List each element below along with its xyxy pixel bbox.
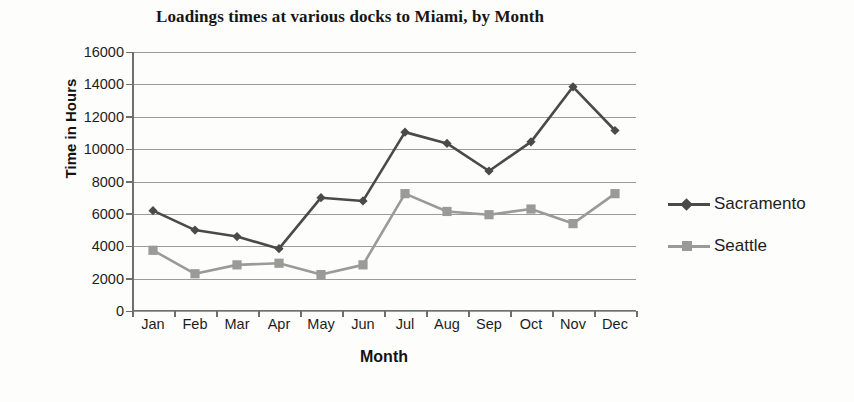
x-tick-mark — [300, 311, 302, 317]
chart-container: Loadings times at various docks to Miami… — [0, 0, 854, 402]
x-tick-mark — [510, 311, 512, 317]
x-tick-mark — [426, 311, 428, 317]
y-tick-mark — [126, 278, 132, 280]
diamond-marker-icon — [668, 197, 710, 211]
y-tick-label: 4000 — [58, 238, 124, 254]
legend-item-seattle[interactable]: Seattle — [668, 230, 848, 272]
grid-line — [132, 214, 636, 215]
y-tick-mark — [126, 84, 132, 86]
y-tick-mark — [126, 213, 132, 215]
x-tick-mark — [174, 311, 176, 317]
y-tick-label: 2000 — [58, 271, 124, 287]
y-tick-mark — [126, 149, 132, 151]
chart-legend: SacramentoSeattle — [668, 188, 848, 272]
x-axis-title: Month — [132, 348, 636, 366]
x-tick-mark — [594, 311, 596, 317]
y-tick-label: 0 — [58, 303, 124, 319]
grid-line — [132, 52, 636, 53]
x-tick-mark — [216, 311, 218, 317]
y-tick-mark — [126, 246, 132, 248]
y-axis-line — [132, 52, 134, 311]
y-tick-mark — [126, 116, 132, 118]
x-tick-label: Dec — [589, 316, 641, 332]
grid-line — [132, 182, 636, 183]
y-tick-mark — [126, 181, 132, 183]
plot-area — [132, 52, 636, 311]
legend-label: Seattle — [714, 230, 767, 262]
x-tick-mark — [468, 311, 470, 317]
x-tick-mark — [342, 311, 344, 317]
grid-line — [132, 117, 636, 118]
y-axis-title: Time in Hours — [62, 49, 79, 209]
grid-line — [132, 149, 636, 150]
y-tick-mark — [126, 52, 132, 54]
square-marker-icon — [668, 239, 710, 253]
x-tick-mark — [636, 311, 638, 317]
grid-line — [132, 84, 636, 85]
legend-item-sacramento[interactable]: Sacramento — [668, 188, 848, 230]
grid-line — [132, 279, 636, 280]
x-tick-mark — [552, 311, 554, 317]
x-tick-mark — [258, 311, 260, 317]
x-tick-mark — [132, 311, 134, 317]
grid-line — [132, 246, 636, 247]
chart-title: Loadings times at various docks to Miami… — [0, 7, 700, 27]
x-tick-mark — [384, 311, 386, 317]
legend-label: Sacramento — [714, 188, 806, 220]
